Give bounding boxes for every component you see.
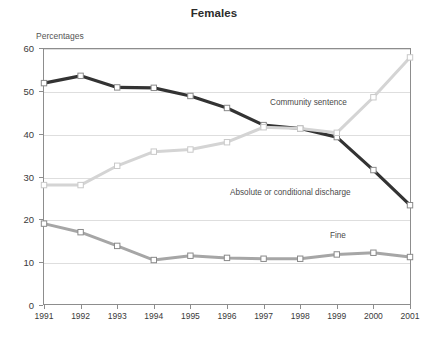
x-axis-tick-mark	[190, 305, 191, 309]
y-axis-tick-label: 60	[0, 43, 34, 54]
y-axis-tick-label: 50	[0, 85, 34, 96]
data-point-marker	[78, 229, 83, 234]
x-axis-tick-label: 1995	[181, 311, 200, 321]
x-axis-tick-label: 1993	[108, 311, 127, 321]
series-community-sentence	[41, 55, 412, 188]
x-axis-tick-label: 2001	[401, 311, 420, 321]
data-point-marker	[298, 256, 303, 261]
x-axis-tick-mark	[264, 305, 265, 309]
series-line	[44, 224, 410, 260]
data-point-marker	[407, 55, 412, 60]
data-point-marker	[407, 203, 412, 208]
x-axis-tick-mark	[154, 305, 155, 309]
data-point-marker	[115, 85, 120, 90]
data-point-marker	[41, 80, 46, 85]
data-point-marker	[334, 252, 339, 257]
series-label: Absolute or conditional discharge	[230, 188, 351, 197]
data-point-marker	[407, 254, 412, 259]
series-fine	[41, 221, 412, 263]
data-point-marker	[188, 147, 193, 152]
x-axis-tick-label: 1991	[35, 311, 54, 321]
x-axis-tick-mark	[300, 305, 301, 309]
chart-title: Females	[0, 7, 428, 19]
series-label: Community sentence	[270, 98, 347, 107]
y-axis-tick-label: 10	[0, 257, 34, 268]
data-point-marker	[78, 73, 83, 78]
data-point-marker	[41, 221, 46, 226]
data-point-marker	[78, 182, 83, 187]
x-axis-tick-label: 2000	[364, 311, 383, 321]
series-label: Fine	[330, 231, 346, 240]
chart-figure: Females Percentages 0102030405060 199119…	[0, 0, 428, 342]
y-axis-tick-label: 0	[0, 300, 34, 311]
x-axis-tick-label: 1997	[254, 311, 273, 321]
x-axis-tick-label: 1996	[218, 311, 237, 321]
data-point-marker	[298, 126, 303, 131]
x-axis-tick-mark	[227, 305, 228, 309]
series-line	[44, 57, 410, 185]
x-axis-tick-label: 1992	[71, 311, 90, 321]
data-point-marker	[224, 140, 229, 145]
x-axis-tick-label: 1999	[327, 311, 346, 321]
data-point-marker	[261, 256, 266, 261]
x-axis-tick-mark	[44, 305, 45, 309]
data-point-marker	[188, 93, 193, 98]
y-axis-unit-label: Percentages	[36, 31, 84, 41]
x-axis-tick-mark	[373, 305, 374, 309]
x-axis-tick-mark	[81, 305, 82, 309]
data-point-marker	[224, 105, 229, 110]
y-axis-tick-label: 20	[0, 214, 34, 225]
y-axis-tick-label: 40	[0, 128, 34, 139]
data-point-marker	[334, 130, 339, 135]
data-point-marker	[371, 167, 376, 172]
x-axis-tick-mark	[410, 305, 411, 309]
data-point-marker	[261, 125, 266, 130]
y-axis-tick-label: 30	[0, 171, 34, 182]
data-point-marker	[151, 85, 156, 90]
data-point-marker	[115, 163, 120, 168]
data-point-marker	[371, 95, 376, 100]
data-point-marker	[188, 253, 193, 258]
x-axis-tick-label: 1994	[144, 311, 163, 321]
x-axis-tick-mark	[337, 305, 338, 309]
data-point-marker	[151, 257, 156, 262]
data-point-marker	[115, 243, 120, 248]
y-axis-tick-mark	[39, 305, 43, 306]
data-point-marker	[151, 149, 156, 154]
x-axis-tick-mark	[117, 305, 118, 309]
data-point-marker	[41, 182, 46, 187]
data-point-marker	[224, 255, 229, 260]
data-point-marker	[371, 250, 376, 255]
x-axis-tick-label: 1998	[291, 311, 310, 321]
series-lines-layer	[43, 48, 411, 305]
